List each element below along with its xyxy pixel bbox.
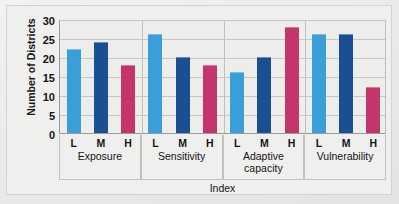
x-tick-label-h: H <box>124 137 132 149</box>
y-tick-label: 30 <box>43 15 55 27</box>
x-tick-label-m: M <box>97 137 106 149</box>
x-tick-label-h: H <box>370 137 378 149</box>
x-axis-groups: LMHExposureLMHSensitivityLMHAdaptive cap… <box>59 135 386 180</box>
group-separator <box>224 21 225 133</box>
x-group-exposure: LMHExposure <box>59 135 141 180</box>
gridline-5 <box>60 115 385 116</box>
bar-adaptive-capacity-h <box>285 27 299 133</box>
group-separator <box>305 21 306 133</box>
plot-area: 051015202530 <box>59 20 386 134</box>
gridline-25 <box>60 39 385 40</box>
bar-adaptive-capacity-l <box>230 72 244 133</box>
bar-vulnerability-l <box>312 34 326 133</box>
x-tick-label-h: H <box>206 137 214 149</box>
x-tick-label-l: L <box>316 137 322 149</box>
bar-exposure-m <box>94 42 108 133</box>
y-axis-title: Number of Districts <box>24 12 38 122</box>
gridline-30 <box>60 20 385 21</box>
x-tick-label-l: L <box>70 137 76 149</box>
x-tick-label-m: M <box>342 137 351 149</box>
x-tick-label-m: M <box>178 137 187 149</box>
y-tick-label: 0 <box>49 129 55 141</box>
bar-sensitivity-l <box>148 34 162 133</box>
gridline-10 <box>60 96 385 97</box>
x-group-label: Vulnerability <box>305 151 385 163</box>
x-group-adaptive-capacity: LMHAdaptive capacity <box>223 135 305 180</box>
x-tick-label-h: H <box>288 137 296 149</box>
y-tick-label: 10 <box>43 91 55 103</box>
bar-sensitivity-m <box>176 57 190 133</box>
bar-vulnerability-m <box>339 34 353 133</box>
x-tick-label-m: M <box>260 137 269 149</box>
x-group-label: Sensitivity <box>142 151 222 163</box>
bar-exposure-l <box>67 49 81 133</box>
gridline-20 <box>60 58 385 59</box>
bar-sensitivity-h <box>203 65 217 133</box>
y-tick-label: 20 <box>43 53 55 65</box>
bar-exposure-h <box>121 65 135 133</box>
x-axis-title: Index <box>59 182 386 194</box>
y-tick-label: 5 <box>49 110 55 122</box>
group-separator <box>142 21 143 133</box>
y-tick-label: 15 <box>43 72 55 84</box>
bar-adaptive-capacity-m <box>257 57 271 133</box>
bar-vulnerability-h <box>366 87 380 133</box>
y-tick-label: 25 <box>43 34 55 46</box>
figure-canvas: Number of Districts 051015202530 LMHExpo… <box>0 0 399 204</box>
gridline-15 <box>60 77 385 78</box>
x-group-label: Adaptive capacity <box>224 151 304 174</box>
chart-frame: Number of Districts 051015202530 LMHExpo… <box>6 5 392 195</box>
x-group-label: Exposure <box>60 151 140 163</box>
x-tick-label-l: L <box>234 137 240 149</box>
x-tick-label-l: L <box>152 137 158 149</box>
x-group-vulnerability: LMHVulnerability <box>304 135 386 180</box>
x-group-sensitivity: LMHSensitivity <box>141 135 223 180</box>
